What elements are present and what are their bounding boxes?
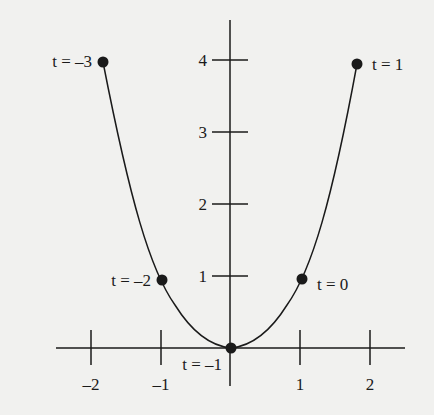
- parametric-curve-chart: –2 –1 1 2 1 2 3 4 t = –3 t = –2 t = –1 t…: [0, 0, 434, 415]
- point-label: t = –2: [111, 271, 151, 290]
- x-tick-label: 2: [366, 375, 375, 394]
- point-t-minus-3: [98, 57, 109, 68]
- x-tick-label: 1: [296, 375, 305, 394]
- x-tick-label: –1: [152, 375, 170, 394]
- point-t-1: [352, 59, 363, 70]
- y-tick-label: 4: [199, 51, 208, 70]
- y-tick-label: 2: [199, 195, 208, 214]
- x-tick-label: –2: [82, 375, 100, 394]
- point-label: t = –3: [52, 52, 92, 71]
- point-label: t = –1: [182, 355, 222, 374]
- point-t-0: [297, 274, 308, 285]
- point-label: t = 0: [317, 275, 348, 294]
- point-t-minus-1: [226, 343, 237, 354]
- y-tick-label: 1: [199, 267, 208, 286]
- point-t-minus-2: [157, 275, 168, 286]
- y-tick-label: 3: [199, 123, 208, 142]
- point-label: t = 1: [372, 55, 403, 74]
